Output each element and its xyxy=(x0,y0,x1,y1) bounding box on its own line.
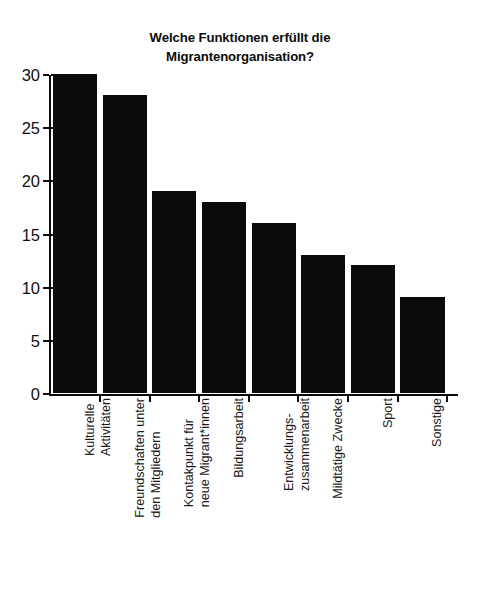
y-tick-label: 5 xyxy=(31,332,40,349)
bar-chart-figure: Welche Funktionen erfüllt die Migranteno… xyxy=(0,0,484,589)
bar xyxy=(53,74,97,393)
bar xyxy=(301,255,345,393)
y-tick-mark xyxy=(43,340,49,342)
chart-title: Welche Funktionen erfüllt die Migranteno… xyxy=(60,28,420,66)
x-axis-category-label: Mildtätige Zwecke xyxy=(331,398,347,499)
y-tick-mark xyxy=(43,287,49,289)
y-tick-mark xyxy=(43,234,49,236)
x-axis-category-label-text: Mildtätige Zwecke xyxy=(331,398,347,499)
x-axis-category-label: Sport xyxy=(381,398,397,428)
y-tick-label: 20 xyxy=(22,173,40,190)
y-tick-label: 10 xyxy=(22,279,40,296)
x-axis-category-label-text: Kontakpunkt für neue Migrant*innen xyxy=(182,398,213,507)
x-axis-category-label: Freundschaften unter den Mitgliedern xyxy=(133,398,164,518)
bar xyxy=(400,297,444,393)
bar xyxy=(252,223,296,393)
y-tick-label: 15 xyxy=(22,226,40,243)
y-tick-label: 30 xyxy=(22,67,40,84)
x-axis-category-label-text: Freundschaften unter den Mitgliedern xyxy=(133,398,164,518)
y-tick-mark xyxy=(43,127,49,129)
x-axis-category-label-text: Sport xyxy=(381,398,397,428)
x-axis-category-label: Sonstige xyxy=(430,398,446,447)
y-tick-label: 25 xyxy=(22,120,40,136)
x-axis-category-label-text: Entwicklungs- zusammenarbeit xyxy=(282,398,313,491)
plot-area: 051015202530 xyxy=(49,75,458,395)
x-axis-category-label: Entwicklungs- zusammenarbeit xyxy=(282,398,313,491)
x-axis-category-label: Kulturelle Aktivitäten xyxy=(83,398,114,456)
bar xyxy=(351,265,395,393)
y-tick-label: 0 xyxy=(31,386,40,403)
y-axis-line xyxy=(49,75,51,396)
x-axis-category-label-text: Kulturelle Aktivitäten xyxy=(83,398,114,456)
x-axis-category-label-text: Sonstige xyxy=(430,398,446,447)
x-axis-category-labels: Kulturelle AktivitätenFreundschaften unt… xyxy=(49,398,469,588)
y-tick-mark xyxy=(43,74,49,76)
bar xyxy=(202,202,246,393)
y-tick-mark xyxy=(43,180,49,182)
y-tick-mark xyxy=(43,393,49,395)
x-axis-category-label-text: Bildungsarbeit xyxy=(232,398,248,478)
x-axis-category-label: Kontakpunkt für neue Migrant*innen xyxy=(182,398,213,507)
bar xyxy=(103,95,147,393)
bar xyxy=(152,191,196,393)
x-axis-category-label: Bildungsarbeit xyxy=(232,398,248,478)
